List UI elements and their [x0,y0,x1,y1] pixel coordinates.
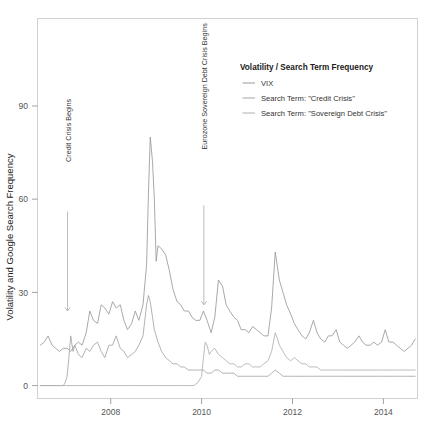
x-tick-label: 2008 [101,407,120,417]
eurozone-crisis-annotation-label: Eurozone Sovereign Debt Crisis Begins [200,23,209,150]
legend-label-0: VIX [261,79,273,88]
legend-title: Volatility / Search Term Frequency [240,63,373,72]
volatility-search-line-chart: Volatility and Google Search Frequency 0… [0,0,424,438]
x-tick-label: 2012 [283,407,302,417]
chart-legend: Volatility / Search Term FrequencyVIXSea… [240,63,387,121]
y-tick-label: 90 [19,101,29,111]
legend-label-1: Search Term: "Credit Crisis" [261,94,355,103]
chart-annotations: Credit Crisis BeginsEurozone Sovereign D… [64,23,209,311]
series-line-0 [40,137,415,351]
y-axis-title: Volatility and Google Search Frequency [4,153,15,320]
plot-panel-border [38,19,418,399]
y-axis-ticks: 0306090 [19,101,38,391]
x-axis-ticks: 2008201020122014 [101,399,393,418]
x-tick-label: 2014 [374,407,393,417]
x-tick-label: 2010 [192,407,211,417]
series-line-1 [40,295,415,385]
y-tick-label: 60 [19,194,29,204]
legend-label-2: Search Term: "Sovereign Debt Crisis" [261,109,387,118]
y-tick-label: 30 [19,288,29,298]
chart-container: Volatility and Google Search Frequency 0… [0,0,424,438]
series-lines [40,137,415,386]
credit-crisis-annotation-label: Credit Crisis Begins [64,98,73,162]
series-line-2 [40,333,415,386]
y-tick-label: 0 [23,381,28,391]
